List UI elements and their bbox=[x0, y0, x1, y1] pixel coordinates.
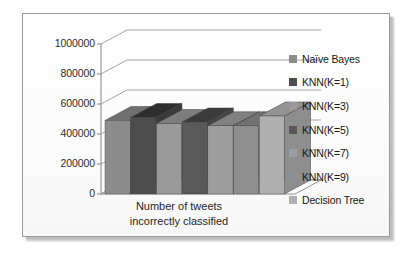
y-tick-label-200000: 200000 bbox=[23, 157, 95, 169]
bar-group bbox=[105, 102, 310, 194]
legend-label: KNN(K=9) bbox=[302, 171, 349, 183]
legend-swatch-icon bbox=[289, 55, 297, 63]
legend-item-6[interactable]: KNN(K=9) bbox=[289, 165, 393, 189]
legend-swatch-icon bbox=[289, 78, 297, 86]
axis-lines bbox=[97, 44, 101, 194]
legend-item-1[interactable]: Naïve Bayes bbox=[289, 47, 393, 71]
legend-label: Naïve Bayes bbox=[302, 53, 360, 65]
legend-label: KNN(K=1) bbox=[302, 76, 349, 88]
legend-swatch-icon bbox=[289, 196, 297, 204]
legend-swatch-icon bbox=[289, 102, 297, 110]
legend-label: KNN(K=7) bbox=[302, 147, 349, 159]
legend-item-7[interactable]: Decision Tree bbox=[289, 189, 393, 213]
legend-swatch-icon bbox=[289, 126, 297, 134]
chart-frame: 02000004000006000008000001000000 Number … bbox=[22, 13, 390, 237]
y-tick-label-1000000: 1000000 bbox=[23, 37, 95, 49]
x-axis-title-line2: incorrectly classified bbox=[79, 214, 279, 229]
legend-item-4[interactable]: KNN(K=5) bbox=[289, 118, 393, 142]
legend-item-5[interactable]: KNN(K=7) bbox=[289, 141, 393, 165]
legend-item-2[interactable]: KNN(K=1) bbox=[289, 71, 393, 95]
x-axis-title-line1: Number of tweets bbox=[79, 199, 279, 214]
legend-item-3[interactable]: KNN(K=3) bbox=[289, 94, 393, 118]
legend-swatch-icon bbox=[289, 149, 297, 157]
y-tick-label-800000: 800000 bbox=[23, 67, 95, 79]
legend-label: Decision Tree bbox=[302, 194, 364, 206]
legend-label: KNN(K=5) bbox=[302, 124, 349, 136]
y-tick-label-600000: 600000 bbox=[23, 97, 95, 109]
x-axis-title: Number of tweets incorrectly classified bbox=[79, 199, 279, 229]
legend-label: KNN(K=3) bbox=[302, 100, 349, 112]
y-tick-label-0: 0 bbox=[23, 187, 95, 199]
chart-legend: Naïve BayesKNN(K=1)KNN(K=3)KNN(K=5)KNN(K… bbox=[289, 47, 393, 212]
y-tick-label-400000: 400000 bbox=[23, 127, 95, 139]
legend-swatch-icon bbox=[289, 173, 297, 181]
